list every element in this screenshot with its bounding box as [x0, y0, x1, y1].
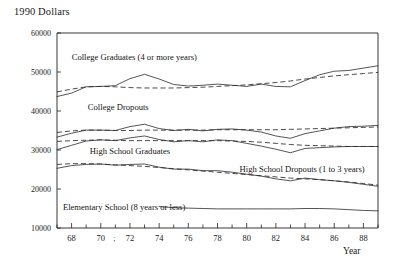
y-tick-label: 10000 [31, 224, 51, 233]
y-tick-label: 50000 [31, 68, 51, 77]
x-tick-label: 80 [242, 233, 251, 243]
x-axis-title: Year [343, 246, 361, 256]
x-tick-label: 86 [330, 233, 339, 243]
series-line [57, 127, 378, 132]
x-tick-label: 88 [359, 233, 368, 243]
series-annotation-label: High School Dropouts (1 to 3 years) [240, 164, 365, 174]
series-line [57, 124, 378, 138]
line-chart: 6000050000400003000020000100006870727476… [0, 0, 402, 269]
series-annotation-label: Elementary School (8 years or less) [63, 202, 186, 212]
chart-page: 1990 Dollars 600005000040000300002000010… [0, 0, 402, 269]
series-line [159, 207, 378, 211]
series-annotation-label: College Dropouts [88, 102, 150, 112]
x-tick-label: 72 [126, 233, 135, 243]
y-tick-label: 40000 [31, 107, 51, 116]
x-tick-label: 76 [184, 233, 193, 243]
series-annotation-label: High School Graduates [90, 146, 171, 156]
y-tick-label: 20000 [31, 185, 51, 194]
x-tick-label: 74 [155, 233, 164, 243]
scan-artifact-mark: ; [113, 234, 115, 243]
series-line [57, 66, 378, 97]
x-tick-label: 78 [213, 233, 222, 243]
x-tick-label: 82 [272, 233, 281, 243]
x-tick-label: 70 [97, 233, 106, 243]
chart-series [57, 66, 378, 211]
series-line [57, 72, 378, 92]
chart-annotations: College Graduates (4 or more years)Colle… [63, 52, 365, 213]
series-annotation-label: College Graduates (4 or more years) [72, 52, 197, 62]
y-tick-label: 60000 [31, 29, 51, 38]
y-tick-label: 30000 [31, 146, 51, 155]
x-tick-label: 84 [301, 233, 310, 243]
x-tick-label: 68 [67, 233, 76, 243]
